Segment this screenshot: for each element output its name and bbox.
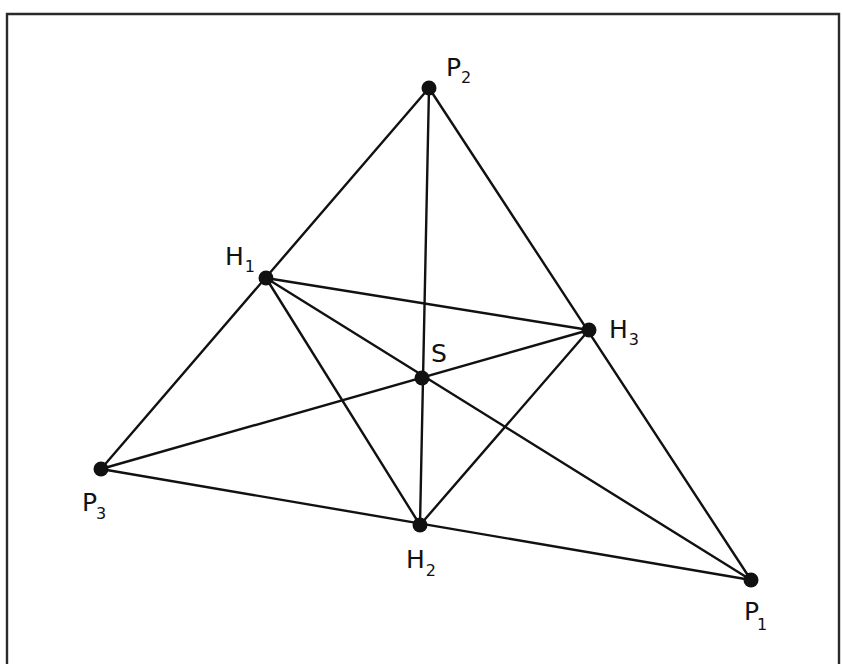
label-s: S [431,339,447,368]
label-h3: H3 [609,315,639,349]
label-p2-main: P [446,53,461,82]
label-h1: H1 [225,242,255,276]
point-p1 [744,573,759,588]
label-h3-sub: 3 [629,330,639,349]
side-h3-h1 [266,278,589,330]
median-p3-h3 [101,330,589,469]
point-h3 [582,323,597,338]
label-p2: P2 [446,53,471,87]
label-h2-main: H [406,545,425,574]
label-h3-main: H [609,315,628,344]
medians [101,88,751,580]
geometry-figure: P2 H1 H3 S P3 H2 P1 [0,0,842,664]
side-h1-h2 [266,278,420,525]
label-p2-sub: 2 [461,68,471,87]
point-p2 [422,81,437,96]
median-p2-h2 [420,88,429,525]
point-s [415,371,430,386]
points [94,81,759,588]
outer-triangle [101,88,751,580]
point-p3 [94,462,109,477]
point-h1 [259,271,274,286]
label-p3-main: P [82,488,97,517]
label-h1-sub: 1 [245,257,255,276]
label-p1-sub: 1 [757,615,767,634]
label-s-main: S [431,339,447,368]
label-h2-sub: 2 [426,561,436,580]
label-h1-main: H [225,242,244,271]
label-p3-sub: 3 [96,504,106,523]
label-p3: P3 [82,488,106,523]
medial-triangle [266,278,589,525]
label-h2: H2 [406,545,436,580]
label-p1: P1 [744,597,767,634]
median-p1-h1 [266,278,751,580]
point-h2 [413,518,428,533]
